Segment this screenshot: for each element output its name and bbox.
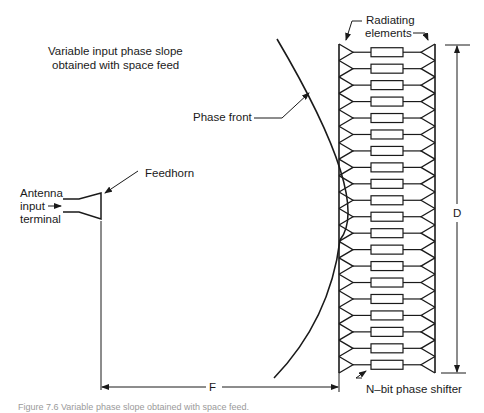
diagram-title-line2: obtained with space feed [52,59,179,71]
radiating-element-left-icon [339,307,353,323]
dimension-f-label: F [209,381,216,393]
radiating-element-left-icon [339,324,353,340]
phase-shifter-box [371,360,403,369]
radiating-label-line1: Radiating [366,14,415,26]
radiating-element-right-icon [421,324,435,340]
phase-shifter-box [371,130,403,139]
radiating-element-left-icon [339,44,353,60]
phase-shifter-box [371,278,403,287]
phase-shifter-box [371,146,403,155]
phase-front-arc [274,39,348,378]
phase-shifter-box [371,245,403,254]
radiating-element-left-icon [339,258,353,274]
radiating-element-left-icon [339,126,353,142]
radiating-element-left-icon [339,357,353,373]
radiating-leader-right [413,33,428,40]
radiating-element-right-icon [421,77,435,93]
feedhorn-label: Feedhorn [145,167,194,179]
radiating-element-left-icon [339,340,353,356]
diagram-title-line1: Variable input phase slope [48,45,183,57]
feedhorn-icon [63,193,101,219]
element-array [339,44,435,373]
radiating-label-line2: elements [365,27,412,39]
radiating-leader-left [346,21,362,40]
antenna-label-line2: input [20,200,46,212]
radiating-element-right-icon [421,225,435,241]
radiating-element-left-icon [339,241,353,257]
radiating-element-left-icon [339,274,353,290]
radiating-element-right-icon [421,44,435,60]
phase-shifter-box [371,81,403,90]
phase-shifter-leader [356,371,366,378]
radiating-element-left-icon [339,143,353,159]
feedhorn-leader [105,171,138,193]
radiating-element-left-icon [339,110,353,126]
dimension-d-label: D [453,207,461,219]
radiating-element-right-icon [421,176,435,192]
radiating-element-right-icon [421,241,435,257]
radiating-element-left-icon [339,60,353,76]
radiating-element-left-icon [339,77,353,93]
phase-shifter-box [371,48,403,57]
phase-shifter-box [371,229,403,238]
radiating-element-left-icon [339,93,353,109]
radiating-element-right-icon [421,159,435,175]
antenna-label-line1: Antenna [20,187,63,199]
phase-shifter-box [371,311,403,320]
radiating-element-right-icon [421,258,435,274]
radiating-element-right-icon [421,357,435,373]
phase-shifter-box [371,196,403,205]
phase-shifter-box [371,163,403,172]
space-fed-array-diagram: Variable input phase slope obtained with… [0,0,484,413]
radiating-element-right-icon [421,93,435,109]
radiating-element-right-icon [421,110,435,126]
phase-shifter-box [371,97,403,106]
radiating-element-left-icon [339,209,353,225]
radiating-element-right-icon [421,340,435,356]
phase-shifter-box [371,294,403,303]
phase-shifter-label: N–bit phase shifter [366,383,462,395]
antenna-label-line3: terminal [20,213,61,225]
radiating-element-right-icon [421,192,435,208]
phase-shifter-box [371,262,403,271]
radiating-element-right-icon [421,274,435,290]
radiating-element-right-icon [421,126,435,142]
radiating-element-left-icon [339,291,353,307]
phase-shifter-box [371,344,403,353]
radiating-element-right-icon [421,143,435,159]
figure-caption: Figure 7.6 Variable phase slope obtained… [18,402,249,412]
phase-shifter-box [371,327,403,336]
phase-shifter-box [371,179,403,188]
phase-front-leader [254,93,309,118]
phase-shifter-box [371,212,403,221]
phase-shifter-box [371,64,403,73]
phase-shifter-box [371,114,403,123]
radiating-element-right-icon [421,60,435,76]
radiating-element-right-icon [421,209,435,225]
phase-front-label: Phase front [193,111,253,123]
radiating-element-right-icon [421,307,435,323]
radiating-element-right-icon [421,291,435,307]
